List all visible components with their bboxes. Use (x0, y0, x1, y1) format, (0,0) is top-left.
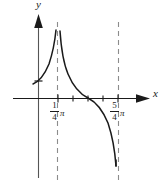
fraction-one-fourth: 1 4 (50, 101, 59, 122)
graph-figure: y x 1 4 π 5 4 π (0, 0, 166, 191)
graph-canvas (0, 0, 166, 191)
curve-branch-middle-upper (60, 31, 88, 98)
fraction-denominator: 4 (52, 113, 57, 122)
fraction-numerator: 1 (52, 101, 57, 110)
fraction-five-fourths: 5 4 (110, 101, 119, 122)
y-axis-arrow-icon (34, 14, 43, 28)
fraction-denominator: 4 (112, 113, 117, 122)
pi-symbol: π (120, 108, 125, 118)
pi-symbol: π (60, 108, 65, 118)
x-axis-arrow-icon (136, 94, 150, 103)
x-axis-label: x (153, 87, 158, 99)
x-tick-label-quarter-pi: 1 4 π (50, 101, 65, 122)
x-tick-label-five-fourths-pi: 5 4 π (110, 101, 125, 122)
curve-branch-left (33, 30, 56, 84)
y-axis-label: y (36, 0, 41, 10)
fraction-numerator: 5 (112, 101, 117, 110)
